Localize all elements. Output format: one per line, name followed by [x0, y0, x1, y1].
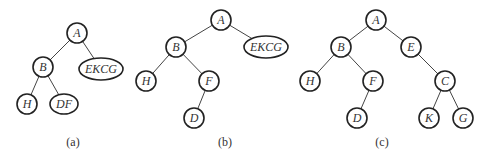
diagram-caption: (c)	[375, 135, 388, 149]
node-label: DF	[55, 97, 73, 111]
node-label: H	[22, 97, 33, 111]
node-label: G	[459, 111, 468, 125]
tree-node-b: B	[33, 57, 53, 77]
tree-node-h: H	[300, 71, 320, 91]
tree-node-b: B	[166, 37, 186, 57]
node-label: H	[141, 74, 152, 88]
node-label: B	[337, 40, 345, 54]
tree-node-ekcg: EKCG	[244, 36, 288, 58]
tree-node-c: C	[435, 71, 455, 91]
node-label: B	[39, 60, 47, 74]
node-label: D	[189, 111, 199, 125]
tree-node-k: K	[419, 108, 439, 128]
node-label: F	[204, 74, 213, 88]
node-label: C	[441, 74, 450, 88]
node-label: A	[216, 13, 225, 27]
tree-node-ekcg: EKCG	[79, 58, 123, 80]
tree-node-d: D	[347, 108, 367, 128]
node-label: A	[371, 13, 380, 27]
node-label: K	[424, 111, 434, 125]
tree-node-df: DF	[50, 94, 78, 114]
tree-node-a: A	[211, 10, 231, 30]
diagram-caption: (a)	[66, 135, 79, 149]
node-label: D	[352, 111, 362, 125]
tree-node-h: H	[17, 94, 37, 114]
captions-layer: (a)(b)(c)	[66, 135, 388, 149]
node-label: F	[368, 74, 377, 88]
nodes-layer: ABEKCGHDFABEKCGHFDABEHFCDKG	[17, 10, 473, 128]
tree-node-f: F	[199, 71, 219, 91]
tree-node-d: D	[184, 108, 204, 128]
diagram-caption: (b)	[218, 135, 232, 149]
node-label: H	[305, 74, 316, 88]
node-label: E	[406, 40, 415, 54]
tree-node-a: A	[67, 23, 87, 43]
node-label: EKCG	[249, 40, 282, 54]
node-label: B	[172, 40, 180, 54]
tree-node-e: E	[401, 37, 421, 57]
tree-node-g: G	[453, 108, 473, 128]
tree-node-h: H	[136, 71, 156, 91]
node-label: A	[72, 26, 81, 40]
tree-node-a: A	[366, 10, 386, 30]
tree-node-b: B	[331, 37, 351, 57]
tree-node-f: F	[363, 71, 383, 91]
node-label: EKCG	[84, 62, 117, 76]
binary-tree-diagrams: ABEKCGHDFABEKCGHFDABEHFCDKG (a)(b)(c)	[0, 0, 487, 160]
